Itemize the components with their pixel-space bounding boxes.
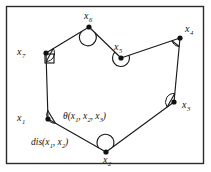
label-subscript-x7: 7 (22, 52, 25, 59)
angle-annotation-theta: θ(x1, x2, x3) (63, 112, 106, 122)
figure-container: x1x2x3x4x5x6x7θ(x1, x2, x3)dis(x1, x2) (0, 0, 211, 172)
label-x3: x3 (182, 100, 190, 110)
label-base-x7: x (17, 46, 21, 57)
label-subscript-x3: 3 (187, 105, 190, 112)
label-subscript-x4: 4 (190, 29, 193, 36)
distance-annotation-dis: dis(x1, x2) (31, 138, 68, 148)
label-subscript-x6: 6 (89, 16, 92, 23)
label-subscript-x5: 5 (119, 47, 122, 54)
label-x2: x2 (103, 155, 111, 165)
angle-annotation-theta-arg-2-subscript: 3 (100, 116, 103, 123)
angle-annotation-theta-arg-0-subscript: 1 (75, 116, 78, 123)
label-base-x1: x (17, 112, 21, 123)
label-x6: x6 (84, 11, 92, 21)
angle-annotation-theta-close-paren: ) (103, 111, 106, 121)
label-subscript-x1: 1 (22, 118, 25, 125)
label-x7: x7 (17, 47, 25, 57)
label-x5: x5 (114, 42, 122, 52)
angle-annotation-theta-arg-1: x (83, 111, 87, 121)
distance-annotation-dis-arg-0-subscript: 1 (50, 142, 53, 149)
distance-annotation-dis-close-paren: ) (65, 137, 68, 147)
vertex-dot-x5[interactable] (118, 55, 123, 60)
vertex-dot-x3[interactable] (171, 99, 176, 104)
label-base-x3: x (182, 99, 186, 110)
distance-annotation-dis-symbol: dis (31, 137, 42, 147)
angle-annotation-theta-arg-2: x (95, 111, 99, 121)
vertex-dot-x6[interactable] (86, 24, 91, 29)
distance-annotation-dis-arg-0: x (45, 137, 49, 147)
vertex-dot-x4[interactable] (177, 35, 182, 40)
label-subscript-x2: 2 (108, 160, 111, 167)
vertex-dot-x1[interactable] (45, 116, 50, 121)
label-x1: x1 (17, 113, 25, 123)
angle-annotation-theta-arg-1-subscript: 2 (88, 116, 91, 123)
label-base-x2: x (103, 154, 107, 165)
label-base-x5: x (114, 41, 118, 52)
vertex-dot-x7[interactable] (43, 50, 48, 55)
label-x4: x4 (185, 24, 193, 34)
label-base-x4: x (185, 23, 189, 34)
label-base-x6: x (84, 10, 88, 21)
distance-annotation-dis-arg-1-subscript: 2 (62, 142, 65, 149)
